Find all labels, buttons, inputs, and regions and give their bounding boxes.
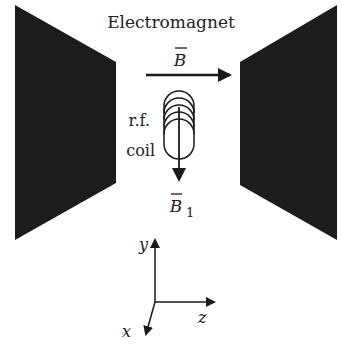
x-axis-label: x xyxy=(122,322,131,341)
y-axis-label: y xyxy=(138,235,149,254)
right-magnet-pole xyxy=(240,5,337,240)
b1-field-label: B xyxy=(169,196,183,216)
x-axis xyxy=(146,302,155,334)
b-field-label: B xyxy=(173,50,187,70)
rf-label: r.f. xyxy=(129,111,150,130)
left-magnet-pole xyxy=(15,5,116,240)
z-axis-label: z xyxy=(197,308,207,327)
nmr-diagram: Electromagnet B r.f. coil B 1 y z x xyxy=(0,0,342,351)
electromagnet-label: Electromagnet xyxy=(107,12,235,32)
b1-subscript: 1 xyxy=(186,205,194,220)
coil-label: coil xyxy=(126,141,155,160)
